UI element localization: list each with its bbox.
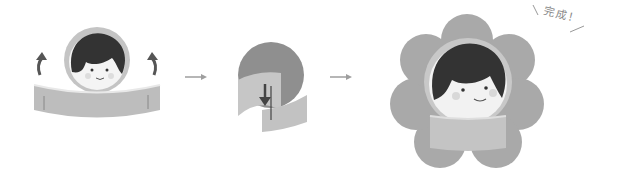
step-arrow-2-icon bbox=[330, 74, 352, 80]
curve-arrow-right-icon bbox=[152, 58, 156, 75]
cheek-right bbox=[108, 73, 114, 79]
cheek-left bbox=[452, 92, 460, 100]
spark-line-right bbox=[570, 26, 584, 32]
step-3 bbox=[390, 5, 584, 168]
step-arrow-1-icon bbox=[185, 74, 207, 80]
eye-left bbox=[461, 88, 465, 92]
arrowhead-right-icon bbox=[147, 52, 158, 60]
eye-left bbox=[91, 69, 94, 72]
eye-right bbox=[106, 69, 109, 72]
step-2 bbox=[238, 42, 307, 132]
paper-band bbox=[430, 116, 506, 151]
cheek-left bbox=[85, 73, 91, 79]
spark-line-left bbox=[533, 5, 538, 15]
craft-steps-diagram bbox=[0, 0, 621, 180]
eye-right bbox=[484, 86, 488, 90]
step-1 bbox=[34, 27, 160, 118]
curve-arrow-left-icon bbox=[38, 58, 42, 75]
arrowhead-left-icon bbox=[36, 52, 47, 60]
cheek-right bbox=[489, 89, 497, 97]
